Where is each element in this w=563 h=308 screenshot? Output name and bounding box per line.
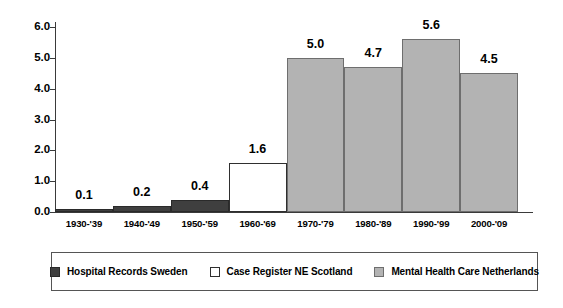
legend-swatch-icon <box>50 267 60 277</box>
legend: Hospital Records SwedenCase Register NE … <box>51 252 538 291</box>
bar <box>229 163 287 212</box>
bar <box>402 39 460 212</box>
bar-value-label: 0.4 <box>171 180 229 193</box>
x-axis-tick-label: 1960-'69 <box>229 219 287 229</box>
legend-item: Hospital Records Sweden <box>50 267 188 277</box>
bar-value-label: 0.1 <box>55 189 113 202</box>
x-axis-tick-label: 1990-'99 <box>402 219 460 229</box>
x-axis-tick-label: 1940-'49 <box>113 219 171 229</box>
bar <box>171 200 229 212</box>
bar <box>287 58 345 212</box>
legend-item-label: Case Register NE Scotland <box>227 267 353 277</box>
y-axis-tick-mark <box>50 212 55 213</box>
legend-item-label: Hospital Records Sweden <box>67 267 188 277</box>
bar <box>460 73 518 212</box>
x-axis-tick-label: 1970-'79 <box>287 219 345 229</box>
bars-layer: 0.11930-'390.21940-'490.41950-'591.61960… <box>0 0 563 240</box>
bar-value-label: 4.5 <box>460 53 518 66</box>
bar-chart: 6.05.04.03.02.01.00.0 0.11930-'390.21940… <box>0 0 563 308</box>
x-axis-tick-label: 1930-'39 <box>55 219 113 229</box>
legend-swatch-icon <box>374 267 384 277</box>
x-axis-tick-label: 1980-'89 <box>344 219 402 229</box>
y-axis-tick-mark <box>50 89 55 90</box>
y-axis-tick-mark <box>50 120 55 121</box>
plot-area: 6.05.04.03.02.01.00.0 0.11930-'390.21940… <box>0 0 563 240</box>
bar-value-label: 5.0 <box>287 38 345 51</box>
bar <box>113 206 171 212</box>
legend-item-label: Mental Health Care Netherlands <box>391 267 539 277</box>
y-axis-tick-mark <box>50 150 55 151</box>
bar <box>344 67 402 212</box>
legend-item: Mental Health Care Netherlands <box>374 267 539 277</box>
bar-value-label: 5.6 <box>402 19 460 32</box>
bar-value-label: 4.7 <box>344 47 402 60</box>
bar-value-label: 0.2 <box>113 186 171 199</box>
bar-value-label: 1.6 <box>229 143 287 156</box>
x-axis-tick-label: 2000-'09 <box>460 219 518 229</box>
x-axis-tick-label: 1950-'59 <box>171 219 229 229</box>
legend-item: Case Register NE Scotland <box>210 267 353 277</box>
legend-swatch-icon <box>210 267 220 277</box>
legend-entries: Hospital Records SwedenCase Register NE … <box>52 253 537 290</box>
y-axis-tick-mark <box>50 27 55 28</box>
y-axis-tick-mark <box>50 181 55 182</box>
bar <box>55 209 113 212</box>
y-axis-tick-mark <box>50 58 55 59</box>
